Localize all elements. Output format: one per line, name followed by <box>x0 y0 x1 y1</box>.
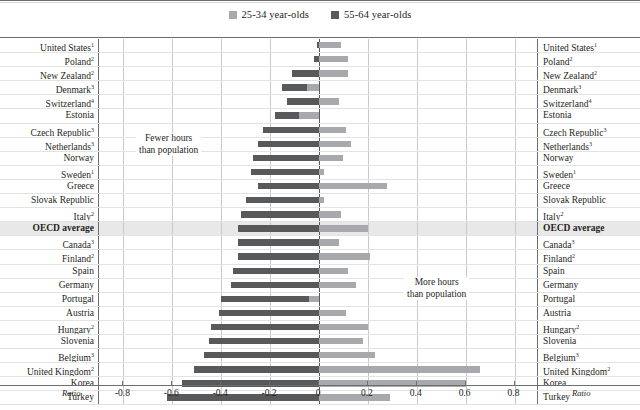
plot-cell-slovak-republic <box>98 194 538 207</box>
gridline-0p6 <box>466 81 467 94</box>
gridline-neg0p6 <box>172 39 173 52</box>
plot-cell-switzerland <box>98 95 538 108</box>
gridline-0p8 <box>515 321 516 334</box>
bar-2534-sweden <box>319 169 324 175</box>
axis-tick-label-neg0p8: -0.8 <box>115 388 130 398</box>
row-label-footnote: 2 <box>91 324 94 330</box>
plot-cell-canada <box>98 236 538 249</box>
gridline-0p2 <box>368 194 369 207</box>
bar-5564-austria <box>219 310 319 316</box>
row-label-text: Norway <box>63 153 94 163</box>
row-label-left-switzerland: Switzerland4 <box>0 95 98 108</box>
plot-cell-united-states <box>98 39 538 52</box>
gridline-0p2 <box>368 236 369 249</box>
gridline-0p4 <box>417 208 418 221</box>
axis-tick-label-0p2: 0.2 <box>361 388 373 398</box>
chart-row-estonia: EstoniaEstonia <box>0 109 640 123</box>
bar-5564-czech-republic <box>263 127 319 133</box>
chart-row-finland: Finland2Finland2 <box>0 250 640 264</box>
row-label-text: United Kingdom <box>27 367 91 376</box>
bar-5564-greece <box>258 183 319 189</box>
chart-row-united-kingdom: United Kingdom2United Kingdom2 <box>0 363 640 377</box>
gridline-0p8 <box>515 208 516 221</box>
gridline-neg0p8 <box>123 307 124 320</box>
gridline-0p8 <box>515 109 516 122</box>
bar-2534-spain <box>319 268 348 274</box>
gridline-0p8 <box>515 250 516 263</box>
row-label-left-poland: Poland2 <box>0 53 98 66</box>
gridline-0p2 <box>368 307 369 320</box>
row-label-text: Hungary <box>543 325 576 334</box>
gridline-0p8 <box>515 363 516 376</box>
axis-tick-label-0: 0 <box>316 388 321 398</box>
gridline-0p2 <box>368 81 369 94</box>
plot-cell-greece <box>98 180 538 193</box>
row-label-text: Belgium <box>543 353 576 362</box>
gridline-0p6 <box>466 321 467 334</box>
gridline-neg0p6 <box>172 194 173 207</box>
bar-2534-austria <box>319 310 346 316</box>
row-label-text: Poland <box>543 57 569 66</box>
row-label-text: Czech Republic <box>31 128 91 137</box>
gridline-0p2 <box>368 321 369 334</box>
gridline-neg0p6 <box>172 335 173 348</box>
row-label-text: Sweden <box>543 170 573 179</box>
gridline-neg0p6 <box>172 293 173 306</box>
gridline-neg0p4 <box>221 236 222 249</box>
gridline-0p6 <box>466 53 467 66</box>
row-label-footnote: 2 <box>560 211 563 217</box>
gridline-0p2 <box>368 109 369 122</box>
gridline-0p2 <box>368 279 369 292</box>
gridline-neg0p8 <box>123 180 124 193</box>
gridline-neg0p8 <box>123 208 124 221</box>
row-label-text: Greece <box>67 181 94 191</box>
row-label-right-united-kingdom: United Kingdom2 <box>538 363 640 376</box>
chart-row-belgium: Belgium3Belgium3 <box>0 349 640 363</box>
bar-5564-finland <box>238 253 319 259</box>
bar-5564-germany <box>231 282 319 288</box>
bar-2534-norway <box>319 155 343 161</box>
gridline-0p2 <box>368 53 369 66</box>
gridline-0p6 <box>466 194 467 207</box>
row-label-footnote: 2 <box>91 253 94 259</box>
row-label-right-new-zealand: New Zealand2 <box>538 67 640 80</box>
row-label-text: Canada <box>543 240 572 249</box>
row-label-footnote: 2 <box>91 211 94 217</box>
gridline-0p8 <box>515 194 516 207</box>
gridline-neg0p6 <box>172 321 173 334</box>
bar-2534-estonia <box>299 112 319 118</box>
bar-5564-canada <box>238 239 319 245</box>
gridline-0p2 <box>368 335 369 348</box>
bar-2534-germany <box>319 282 356 288</box>
gridline-neg0p8 <box>123 124 124 137</box>
gridline-neg0p4 <box>221 265 222 278</box>
gridline-neg0p8 <box>123 152 124 165</box>
gridline-neg0p6 <box>172 81 173 94</box>
gridline-0p4 <box>417 180 418 193</box>
row-label-footnote: 2 <box>91 56 94 62</box>
chart-row-hungary: Hungary2Hungary2 <box>0 321 640 335</box>
gridline-0p4 <box>417 67 418 80</box>
chart-row-norway: NorwayNorway <box>0 152 640 166</box>
row-label-left-netherlands: Netherlands3 <box>0 138 98 151</box>
row-label-footnote: 2 <box>569 56 572 62</box>
gridline-0p4 <box>417 349 418 362</box>
row-label-right-norway: Norway <box>538 152 640 165</box>
bar-2534-portugal <box>309 296 319 302</box>
gridline-0p4 <box>417 124 418 137</box>
row-label-left-austria: Austria <box>0 307 98 320</box>
gridline-0p4 <box>417 81 418 94</box>
row-label-text: Slovak Republic <box>31 195 94 205</box>
axis-tick-neg0p8 <box>122 381 123 385</box>
gridline-neg0p6 <box>172 208 173 221</box>
gridline-0p4 <box>417 222 418 235</box>
row-label-text: Sweden <box>61 170 91 179</box>
gridline-neg0p8 <box>123 250 124 263</box>
row-label-footnote: 3 <box>91 352 94 358</box>
row-label-footnote: 3 <box>578 84 581 90</box>
row-label-left-portugal: Portugal <box>0 293 98 306</box>
top-border-rule-secondary <box>0 2 640 3</box>
row-label-footnote: 2 <box>594 70 597 76</box>
row-label-text: Estonia <box>543 110 572 120</box>
annot-more-line2: than population <box>407 289 466 301</box>
